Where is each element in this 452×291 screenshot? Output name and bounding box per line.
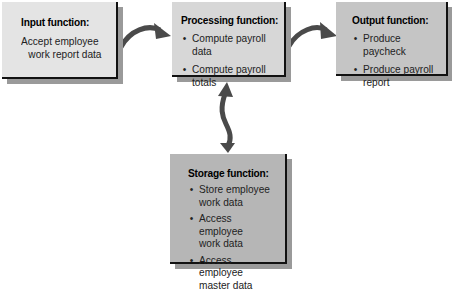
bullet-icon: • bbox=[190, 254, 194, 267]
input-function-title: Input function: bbox=[21, 16, 105, 28]
list-item: •Access employee work data bbox=[188, 212, 277, 250]
processing-function-list: •Compute payroll data •Compute payroll t… bbox=[181, 32, 284, 88]
list-item: •Produce paycheck bbox=[352, 32, 438, 57]
bullet-icon: • bbox=[190, 183, 194, 196]
list-item: •Access employee master data bbox=[188, 254, 277, 291]
input-function-description: Accept employee work report data bbox=[21, 35, 108, 61]
storage-function-list: •Store employee work data •Access employ… bbox=[188, 183, 285, 291]
list-item: •Produce payroll report bbox=[352, 63, 438, 88]
processing-function-title: Processing function: bbox=[181, 14, 272, 26]
output-function-box: Output function: •Produce paycheck •Prod… bbox=[336, 2, 448, 76]
list-item: •Compute payroll data bbox=[181, 32, 276, 57]
bullet-icon: • bbox=[354, 32, 358, 45]
arrow-processing-storage-bidirectional bbox=[218, 82, 235, 153]
output-function-title: Output function: bbox=[352, 14, 435, 26]
storage-function-title: Storage function: bbox=[188, 167, 273, 179]
bullet-icon: • bbox=[354, 63, 358, 76]
input-function-box: Input function: Accept employee work rep… bbox=[2, 2, 118, 79]
bullet-icon: • bbox=[183, 63, 187, 76]
storage-function-box: Storage function: •Store employee work d… bbox=[170, 154, 287, 264]
input-line-2: work report data bbox=[21, 48, 108, 61]
output-function-list: •Produce paycheck •Produce payroll repor… bbox=[352, 32, 446, 88]
list-item: •Compute payroll totals bbox=[181, 63, 276, 88]
arrow-input-to-processing bbox=[121, 23, 171, 47]
arrow-processing-to-output bbox=[289, 22, 337, 46]
list-item: •Store employee work data bbox=[188, 183, 277, 208]
bullet-icon: • bbox=[183, 32, 187, 45]
bullet-icon: • bbox=[190, 212, 194, 225]
input-line-1: Accept employee bbox=[21, 35, 108, 48]
processing-function-box: Processing function: •Compute payroll da… bbox=[172, 2, 286, 77]
